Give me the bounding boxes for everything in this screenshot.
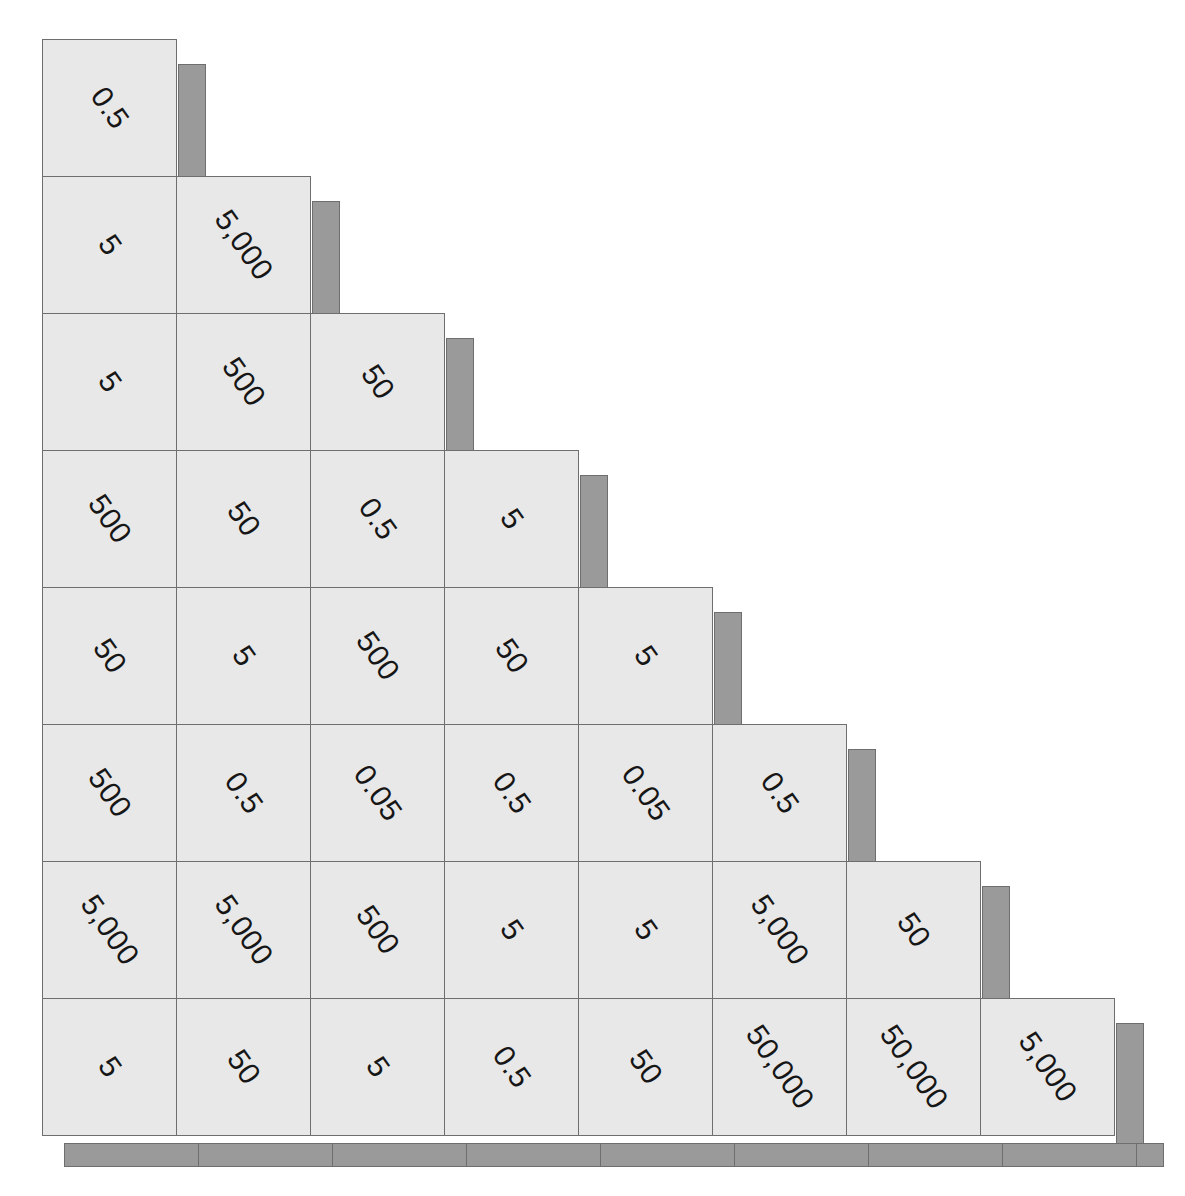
cell-value-label: 0.5 <box>217 766 270 821</box>
cell-value-label: 50 <box>220 495 268 543</box>
matrix-cell[interactable]: 5 <box>42 313 177 451</box>
base-shadow-segment <box>198 1143 333 1167</box>
matrix-cell[interactable]: 5 <box>310 998 445 1136</box>
base-shadow-strip <box>65 1143 1164 1167</box>
cell-value-label: 500 <box>215 351 272 413</box>
matrix-cell[interactable]: 50 <box>578 998 713 1136</box>
cell-value-label: 5,000 <box>1011 1025 1083 1108</box>
matrix-row: 0.5 <box>43 40 177 178</box>
matrix-cell[interactable]: 50 <box>846 861 981 999</box>
cell-value-label: 5 <box>627 913 665 947</box>
matrix-cell[interactable]: 5,000 <box>712 861 847 999</box>
base-shadow-segment <box>466 1143 601 1167</box>
cell-value-label: 50 <box>890 906 938 954</box>
matrix-row: 55,000 <box>43 177 311 315</box>
base-shadow-segment <box>1002 1143 1137 1167</box>
cell-value-label: 5 <box>91 228 129 262</box>
cell-value-label: 50 <box>220 1043 268 1091</box>
cell-value-label: 0.05 <box>614 759 676 828</box>
cell-value-label: 5,000 <box>73 888 145 971</box>
matrix-cell[interactable]: 5,000 <box>176 861 311 999</box>
matrix-cell[interactable]: 500 <box>42 724 177 862</box>
matrix-row: 550050 <box>43 314 445 452</box>
matrix-cell[interactable]: 5 <box>42 998 177 1136</box>
base-shadow-segment-tail <box>1136 1143 1164 1167</box>
cell-value-label: 0.5 <box>485 1040 538 1095</box>
matrix-row: 55050.55050,00050,0005,000 <box>43 999 1115 1137</box>
cell-value-label: 500 <box>81 762 138 824</box>
cell-value-label: 5 <box>359 1050 397 1084</box>
cell-value-label: 0.5 <box>83 81 136 136</box>
row-extrusion-shadow <box>1116 1023 1144 1161</box>
matrix-cell[interactable]: 500 <box>42 450 177 588</box>
cell-value-label: 5 <box>91 365 129 399</box>
base-shadow-segment <box>332 1143 467 1167</box>
cell-value-label: 0.5 <box>485 766 538 821</box>
matrix-cell[interactable]: 0.5 <box>444 724 579 862</box>
matrix-cell[interactable]: 5 <box>578 587 713 725</box>
base-shadow-segment <box>64 1143 199 1167</box>
matrix-cell[interactable]: 50,000 <box>846 998 981 1136</box>
matrix-cell[interactable]: 5 <box>42 176 177 314</box>
cell-value-label: 50 <box>488 632 536 680</box>
cell-value-label: 5,000 <box>743 888 815 971</box>
cell-value-label: 5,000 <box>207 203 279 286</box>
cell-value-label: 5 <box>627 639 665 673</box>
cell-value-label: 5 <box>493 502 531 536</box>
matrix-cell[interactable]: 0.5 <box>176 724 311 862</box>
matrix-cell[interactable]: 0.5 <box>310 450 445 588</box>
matrix-row: 500500.55 <box>43 451 579 589</box>
matrix-cell[interactable]: 50 <box>310 313 445 451</box>
matrix-cell[interactable]: 0.05 <box>578 724 713 862</box>
matrix-cell[interactable]: 5,000 <box>980 998 1115 1136</box>
matrix-cell[interactable]: 0.05 <box>310 724 445 862</box>
matrix-cell[interactable]: 500 <box>310 861 445 999</box>
cell-value-label: 50 <box>354 358 402 406</box>
cell-value-label: 500 <box>81 488 138 550</box>
matrix-cell[interactable]: 5 <box>444 450 579 588</box>
cell-value-label: 5,000 <box>207 888 279 971</box>
matrix-cell[interactable]: 50 <box>444 587 579 725</box>
matrix-cell[interactable]: 5,000 <box>176 176 311 314</box>
cell-value-label: 500 <box>349 899 406 961</box>
matrix-cell[interactable]: 500 <box>310 587 445 725</box>
cell-value-label: 5 <box>225 639 263 673</box>
matrix-row: 505500505 <box>43 588 713 726</box>
matrix-cell[interactable]: 500 <box>176 313 311 451</box>
matrix-cell[interactable]: 0.5 <box>712 724 847 862</box>
matrix-cell[interactable]: 5 <box>578 861 713 999</box>
matrix-cell[interactable]: 5 <box>176 587 311 725</box>
matrix-cell[interactable]: 5 <box>444 861 579 999</box>
matrix-cell[interactable]: 50 <box>176 998 311 1136</box>
matrix-cell[interactable]: 50 <box>42 587 177 725</box>
cell-value-label: 50,000 <box>738 1018 820 1115</box>
cell-value-label: 5 <box>493 913 531 947</box>
cell-value-label: 0.5 <box>753 766 806 821</box>
cell-value-label: 50 <box>622 1043 670 1091</box>
matrix-cell[interactable]: 0.5 <box>444 998 579 1136</box>
base-shadow-segment <box>600 1143 735 1167</box>
triangular-matrix-figure: 0.555,000550050500500.555055005055000.50… <box>0 0 1185 1196</box>
cell-value-label: 50,000 <box>872 1018 954 1115</box>
cell-value-label: 0.05 <box>346 759 408 828</box>
matrix-cell[interactable]: 50 <box>176 450 311 588</box>
cell-value-label: 50 <box>86 632 134 680</box>
cell-value-label: 0.5 <box>351 492 404 547</box>
matrix-row: 5,0005,000500555,00050 <box>43 862 981 1000</box>
base-shadow-segment <box>734 1143 869 1167</box>
matrix-cell[interactable]: 0.5 <box>42 39 177 177</box>
cell-value-label: 5 <box>91 1050 129 1084</box>
matrix-cell[interactable]: 50,000 <box>712 998 847 1136</box>
matrix-row: 5000.50.050.50.050.5 <box>43 725 847 863</box>
matrix-cell[interactable]: 5,000 <box>42 861 177 999</box>
cell-value-label: 500 <box>349 625 406 687</box>
base-shadow-segment <box>868 1143 1003 1167</box>
